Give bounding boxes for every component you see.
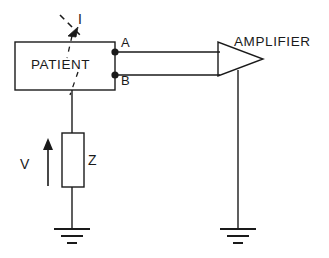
leakage-path-mid-dashed [67,36,72,58]
voltage-arrowhead-icon [43,138,53,150]
voltage-label: V [20,157,29,171]
impedance-label: Z [88,153,97,167]
amplifier-block-label: AMPLIFIER [234,35,311,49]
impedance-block [62,133,84,187]
terminal-b-label: B [121,74,130,87]
patient-block-label: PATIENT [31,58,90,72]
circuit-diagram: PATIENT AMPLIFIER A B I V Z [0,0,329,258]
current-arrowhead-icon [68,27,78,37]
terminal-a-label: A [121,36,130,49]
current-label: I [78,12,82,26]
leakage-path-lower-dashed [70,72,78,95]
